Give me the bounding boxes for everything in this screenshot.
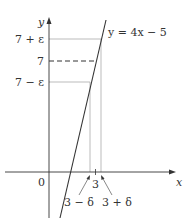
- y-axis-arrow-icon: [47, 17, 52, 24]
- left-delta-arrowhead-icon: [87, 175, 91, 180]
- epsilon-delta-diagram: y x 0 y = 4x − 5 7 + ε 7 7 − ε 3 3 − δ 3…: [0, 0, 189, 220]
- curve-equation-label: y = 4x − 5: [107, 26, 167, 39]
- origin-label: 0: [38, 176, 45, 189]
- x-marker-right: 3 + δ: [102, 196, 132, 209]
- x-axis-arrow-icon: [169, 170, 176, 175]
- y-marker-lower: 7 − ε: [15, 76, 44, 89]
- left-delta-pointer: [79, 177, 89, 195]
- y-marker-center: 7: [37, 55, 44, 68]
- x-marker-center: 3: [92, 178, 99, 191]
- x-axis-label: x: [176, 176, 183, 189]
- x-marker-left: 3 − δ: [64, 196, 94, 209]
- y-axis-label: y: [37, 16, 45, 29]
- right-delta-arrowhead-icon: [101, 175, 105, 180]
- y-marker-upper: 7 + ε: [15, 33, 44, 46]
- right-delta-pointer: [102, 177, 112, 195]
